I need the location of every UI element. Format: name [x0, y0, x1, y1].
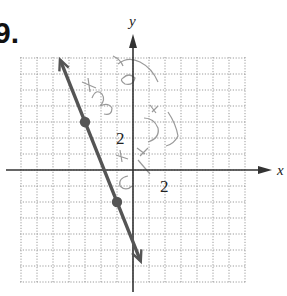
- data-series: [59, 59, 141, 261]
- x-axis-label: x: [276, 162, 284, 178]
- data-point: [112, 197, 122, 207]
- data-point: [80, 117, 90, 127]
- coordinate-plane: x y 2 2: [0, 0, 287, 296]
- y-tick-label: 2: [116, 129, 125, 148]
- x-tick-label: 2: [160, 177, 169, 196]
- y-axis-label: y: [127, 13, 136, 29]
